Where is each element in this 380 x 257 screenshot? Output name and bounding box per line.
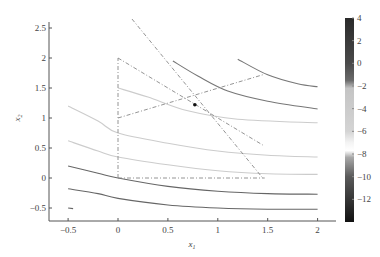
y-tick-label: −0.5 [30,203,47,213]
x-tick-label: 0 [116,225,121,235]
plot-area [68,19,318,209]
colorbar-tick-label: 0 [357,58,362,68]
y-tick-label: 2 [42,53,47,63]
contour-line [68,189,318,209]
contour-line [68,166,318,194]
colorbar-tick-label: −4 [357,104,367,114]
y-tick-label: 0.5 [35,143,47,153]
x-tick-label: 1 [216,225,221,235]
axes: −0.500.511.52−0.500.511.522.5x1x2 [12,22,336,250]
colorbar-tick-label: −6 [357,126,367,136]
y-axis-label: x2 [12,115,23,123]
contour-line [238,59,318,87]
optimum-point [193,103,197,107]
y-tick-label: 1 [42,113,47,123]
y-tick-label: 1.5 [35,83,47,93]
y-tick-label: 2.5 [35,23,47,33]
colorbar-gradient [345,18,354,222]
y-tick-label: 0 [42,173,47,183]
colorbar-tick-label: −2 [357,81,367,91]
x-axis-label: x1 [188,239,196,250]
colorbar-tick-label: −12 [357,194,371,204]
colorbar-tick-label: 4 [357,13,362,23]
x-tick-label: 0.5 [162,225,174,235]
x-tick-label: 2 [315,225,320,235]
contour-line [68,141,318,175]
colorbar-tick-label: 2 [357,36,362,46]
colorbar-tick-label: −8 [357,149,367,159]
contour-line [173,61,318,109]
contour-line [118,88,318,123]
contour-line [68,208,73,209]
contour-line [68,106,318,157]
dashdot-line [118,58,263,145]
colorbar-tick-label: −10 [357,172,372,182]
x-tick-label: 1.5 [262,225,274,235]
colorbar: 420−2−4−6−8−10−12 [345,13,372,222]
contour-chart: −0.500.511.52−0.500.511.522.5x1x2 420−2−… [0,0,380,257]
x-tick-label: −0.5 [60,225,77,235]
